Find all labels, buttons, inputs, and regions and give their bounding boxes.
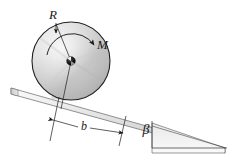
incline-left-endcap (11, 88, 18, 96)
label-distance-b: b (81, 119, 87, 133)
wheel (32, 22, 110, 109)
dimension-b-line-left-segment (53, 120, 78, 127)
dimension-b-line-right-segment (90, 128, 123, 133)
label-radius-R: R (48, 7, 57, 22)
label-moment-M: M (96, 37, 109, 52)
wheel-on-incline-figure: R M b β (0, 0, 231, 156)
incline-plane (11, 88, 227, 153)
label-angle-beta: β (142, 122, 150, 137)
diagram-canvas: R M b β (0, 0, 231, 156)
incline-wedge-body (152, 123, 225, 153)
